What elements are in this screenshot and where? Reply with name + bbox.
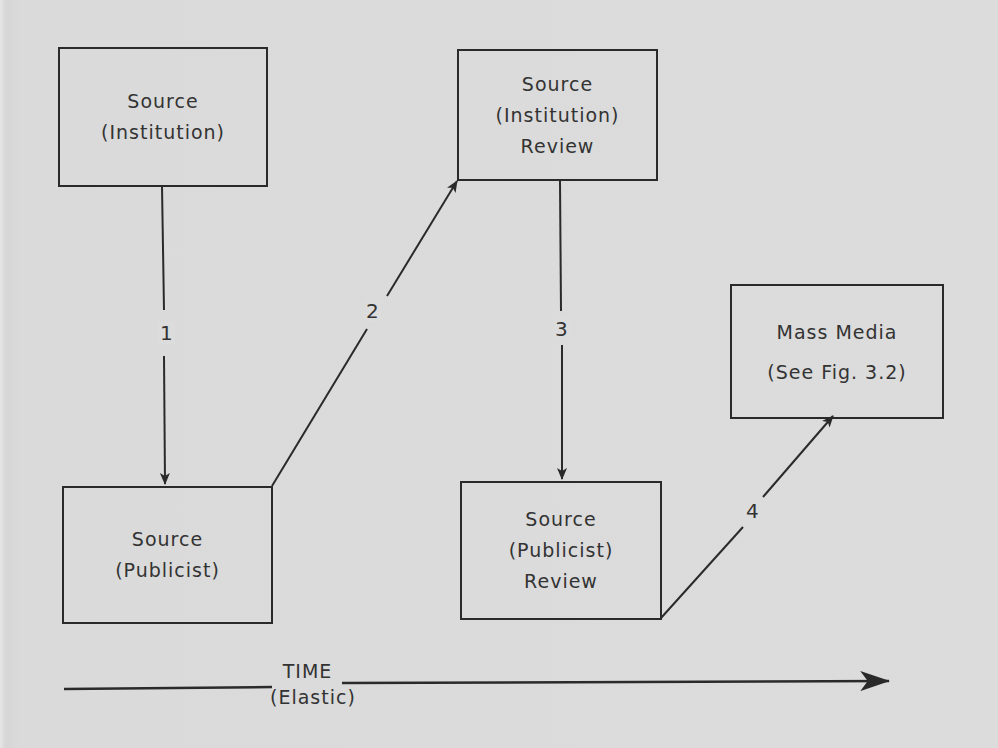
node-label-line: Source (132, 524, 203, 555)
node-source-publicist-review: Source (Publicist) Review (460, 481, 662, 620)
node-label-line: Source (525, 504, 596, 535)
node-label-line: (See Fig. 3.2) (767, 352, 907, 392)
node-source-institution: Source (Institution) (58, 47, 268, 187)
edge-1-label: 1 (158, 322, 175, 344)
node-label-line: Source (127, 86, 198, 117)
edge-1-line-lower (164, 356, 165, 484)
time-axis-title: TIME (270, 658, 345, 684)
edge-3-line-upper (560, 181, 561, 311)
node-label-line: (Publicist) (115, 555, 220, 586)
edge-4-line-lower (661, 527, 743, 618)
node-label-line: Source (522, 69, 593, 100)
edge-2-line-lower (272, 329, 367, 486)
edge-2-label: 2 (364, 300, 381, 322)
node-label-line: Review (521, 131, 595, 162)
node-source-institution-review: Source (Institution) Review (457, 49, 658, 181)
node-label-line: (Institution) (496, 100, 620, 131)
time-axis-line-left (64, 687, 272, 689)
edge-1-line (162, 186, 164, 310)
edge-4-label: 4 (744, 500, 761, 522)
time-axis-label: TIME (Elastic) (270, 658, 345, 710)
node-source-publicist: Source (Publicist) (62, 486, 273, 624)
edge-2-line-upper (387, 181, 457, 296)
time-axis-subtitle: (Elastic) (270, 684, 345, 710)
edge-4-line-upper (763, 416, 833, 497)
node-mass-media: Mass Media (See Fig. 3.2) (730, 284, 944, 419)
edge-3-label: 3 (553, 318, 570, 340)
node-label-line: Review (524, 566, 598, 597)
time-axis-line-right (342, 681, 889, 683)
node-label-line: (Publicist) (509, 535, 614, 566)
node-label-line: (Institution) (101, 117, 225, 148)
node-label-line: Mass Media (777, 312, 898, 352)
